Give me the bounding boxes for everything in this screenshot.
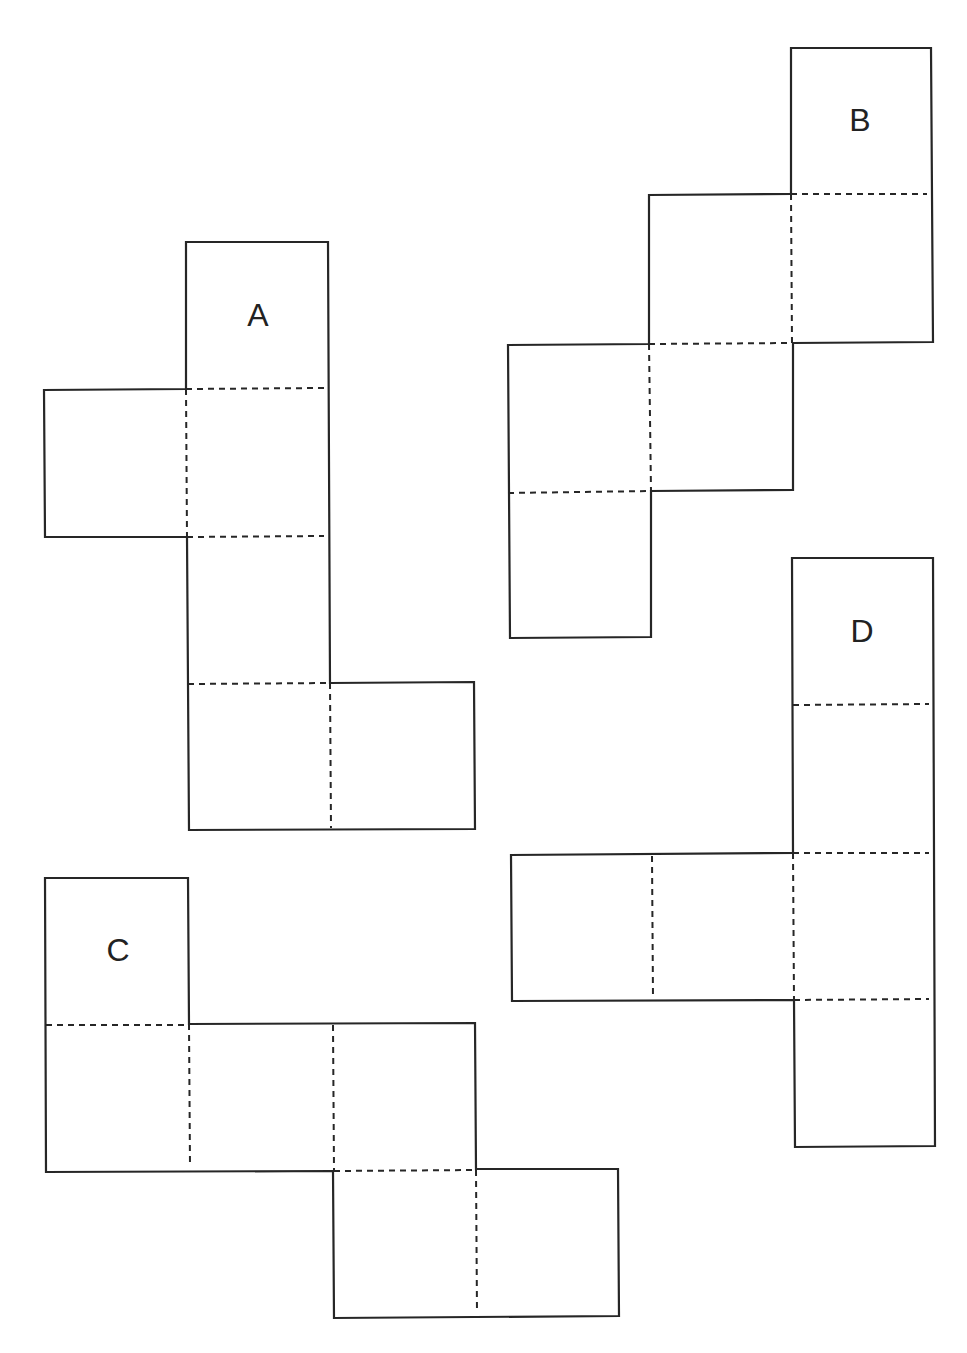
net-B: B xyxy=(508,48,933,638)
net-B-label: B xyxy=(849,102,870,138)
net-D: D xyxy=(511,558,935,1147)
net-C-label: C xyxy=(106,932,129,968)
net-D-label: D xyxy=(850,613,873,649)
net-A-label: A xyxy=(247,297,269,333)
cube-nets-diagram: A B C D xyxy=(0,0,967,1353)
net-A: A xyxy=(44,242,475,830)
